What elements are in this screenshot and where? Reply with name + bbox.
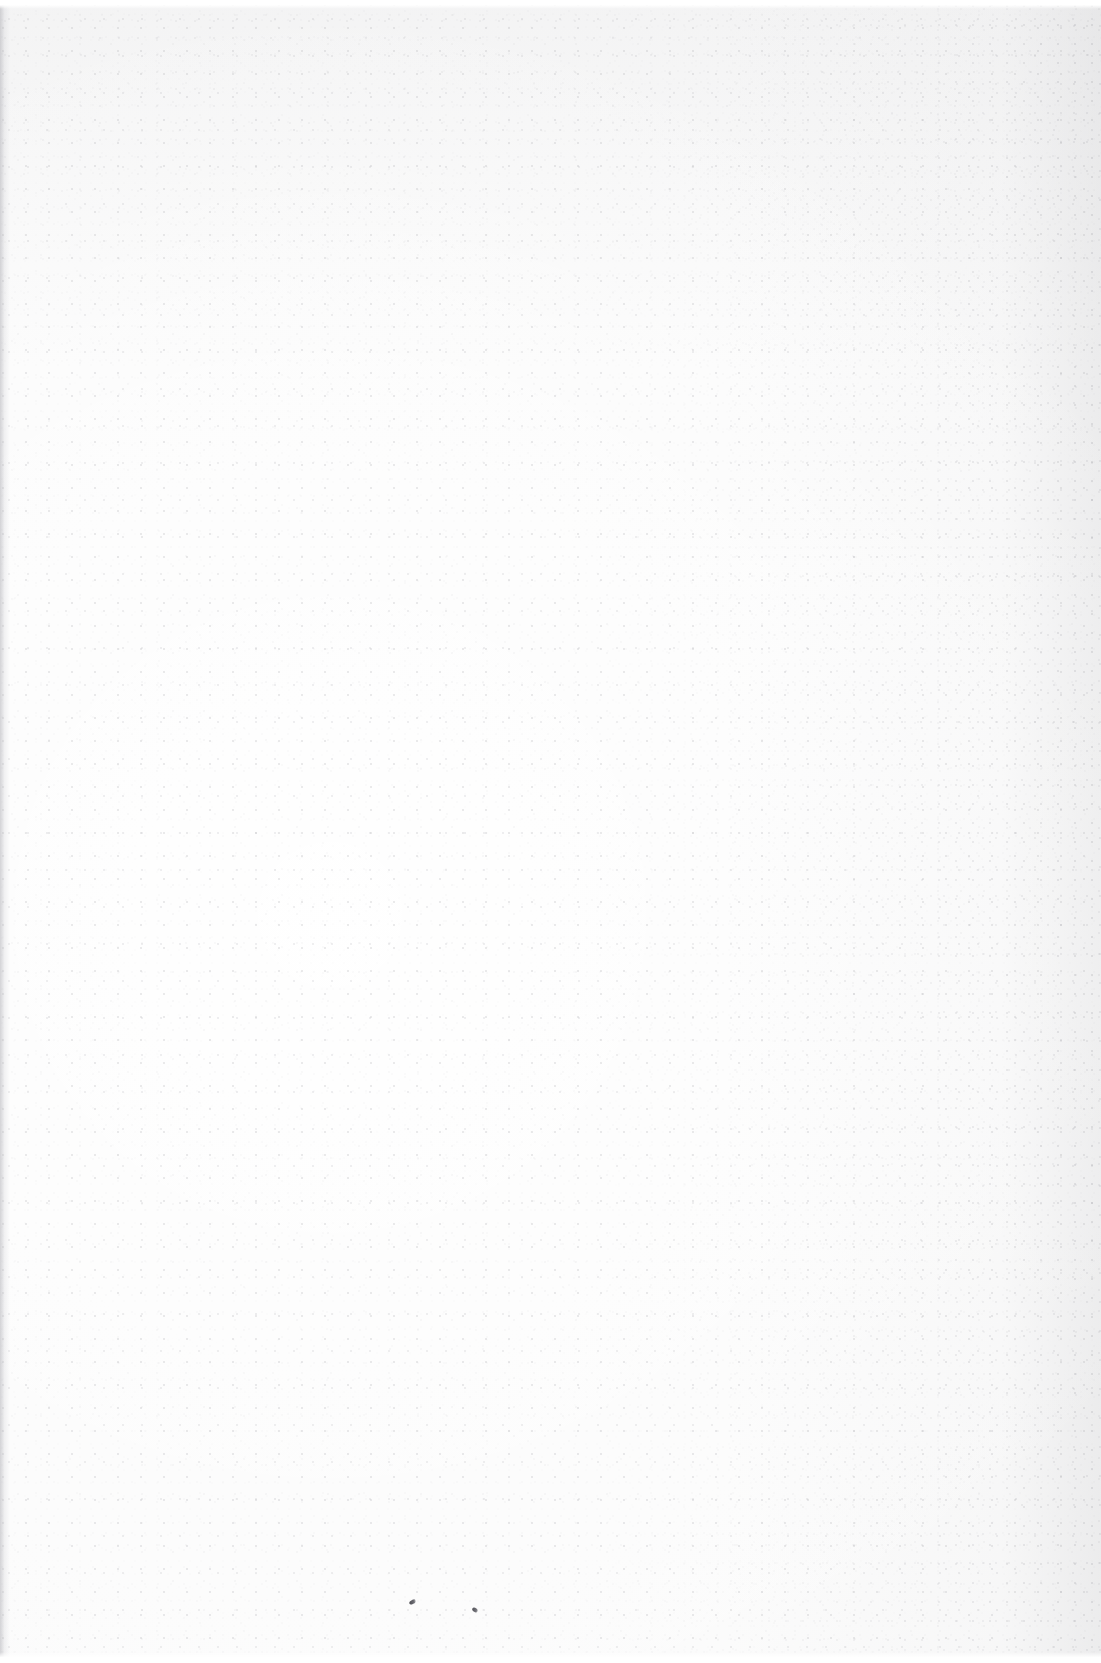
- gutter-shadow: [0, 0, 10, 1663]
- scan-edge-top: [0, 0, 1101, 9]
- scanned-page: [0, 0, 1101, 1663]
- scan-edge-bottom: [0, 1652, 1101, 1663]
- paper-grain-top-edge: [0, 0, 1101, 499]
